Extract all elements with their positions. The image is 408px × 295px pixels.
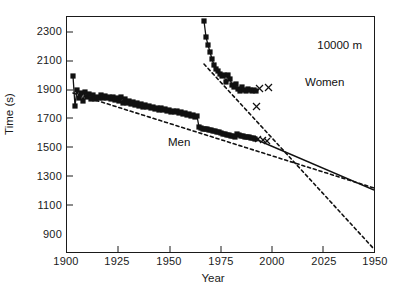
x-axis-ticks [118, 246, 323, 252]
y-tick-label-1300: 1300 [37, 171, 62, 182]
men-trend-dashed [73, 93, 374, 188]
x-tick-label-2025: 2025 [302, 256, 346, 267]
x-tick-label-1950: 1950 [147, 256, 191, 267]
x-tick-label-2050: 1950 [353, 256, 397, 267]
x-axis-title-text: Year [201, 272, 224, 284]
y-tick-label-1900: 1900 [37, 84, 62, 95]
y-tick-label-1700: 1700 [37, 113, 62, 124]
x-axis-title: Year [0, 272, 408, 284]
distance-annotation: 10000 m [317, 39, 362, 51]
y-tick-label-2100: 2100 [37, 55, 62, 66]
women-trend-dashed [204, 64, 374, 249]
x-marker [253, 103, 260, 110]
y-tick-label-1500: 1500 [37, 142, 62, 153]
x-tick-label-1900: 1900 [44, 256, 88, 267]
men-solid-projection [255, 139, 374, 190]
y-tick-label-900: 900 [43, 229, 62, 240]
y-axis-title: Time (s) [3, 78, 15, 150]
x-tick-label-1925: 1925 [95, 256, 139, 267]
women-series-markers [201, 18, 258, 93]
x-marker [265, 84, 272, 91]
series-label-men: Men [168, 136, 190, 148]
plot-area: 10000 m Women Men [66, 16, 375, 253]
series-label-women: Women [305, 76, 344, 88]
chart-figure: 2300 2100 1900 1700 1500 1300 1100 900 1… [0, 0, 408, 295]
y-axis-ticks [67, 32, 73, 205]
y-tick-label-1100: 1100 [38, 200, 62, 211]
x-tick-label-1975: 1975 [199, 256, 243, 267]
y-tick-label-2300: 2300 [37, 26, 62, 37]
x-tick-label-2000: 2000 [250, 256, 294, 267]
plot-canvas [67, 17, 374, 252]
